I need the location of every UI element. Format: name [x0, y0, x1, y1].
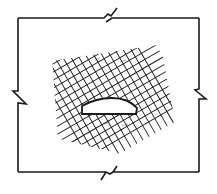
boundary-top-edge: [18, 8, 199, 22]
mesh-grid: [19, 5, 198, 184]
boundary-right-edge: [195, 18, 206, 172]
opening-shape: [82, 98, 137, 114]
boundary-left-edge: [13, 18, 26, 172]
boundary-frame: [13, 8, 206, 180]
boundary-bottom-edge: [18, 166, 199, 180]
elliptical-opening: [82, 98, 137, 114]
diagram-canvas: Finite region with rotated mesh around e…: [0, 0, 217, 194]
diagram-svg: [0, 0, 217, 194]
